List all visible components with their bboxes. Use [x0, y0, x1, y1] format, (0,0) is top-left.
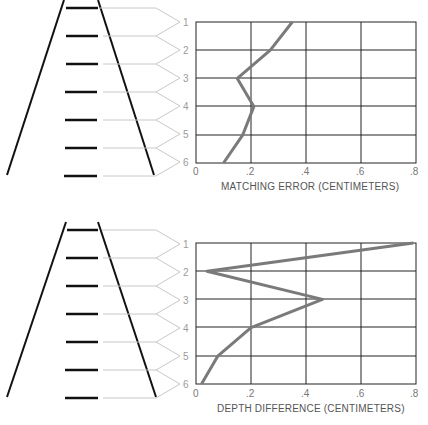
row-label: 4 — [183, 101, 189, 112]
panel-svg: 1 2 3 4 5 6 0 .2 .4 .6 .8 DEPTH DIFFEREN… — [0, 212, 428, 425]
x-tick: .4 — [301, 166, 310, 177]
row-label: 3 — [183, 295, 189, 306]
ladder-right-rail — [98, 0, 154, 175]
x-tick: .2 — [246, 166, 255, 177]
ladder-left-rail — [7, 222, 66, 397]
ladder-figure — [7, 222, 156, 398]
panel-depth-difference: 1 2 3 4 5 6 0 .2 .4 .6 .8 DEPTH DIFFEREN… — [0, 212, 428, 424]
row-label: 5 — [183, 129, 189, 140]
ladder-rungs — [64, 8, 98, 176]
x-axis-title: MATCHING ERROR (CENTIMETERS) — [221, 181, 399, 192]
ladder-right-rail — [98, 222, 156, 397]
x-tick: .6 — [356, 166, 365, 177]
row-label: 6 — [183, 379, 189, 390]
row-label: 5 — [183, 351, 189, 362]
ladder-left-rail — [7, 0, 64, 175]
row-label: 4 — [183, 323, 189, 334]
x-tick-labels: 0 .2 .4 .6 .8 — [193, 166, 419, 177]
rung-connectors — [100, 8, 180, 176]
row-label: 2 — [183, 45, 189, 56]
row-label: 6 — [183, 157, 189, 168]
data-series-line — [224, 22, 293, 163]
x-tick: 0 — [193, 166, 199, 177]
ladder-figure — [7, 0, 154, 176]
row-label: 3 — [183, 73, 189, 84]
row-label: 2 — [183, 267, 189, 278]
x-tick: .8 — [410, 166, 419, 177]
panel-svg: 1 2 3 4 5 6 0 .2 .4 .6 .8 MATCHING — [0, 0, 428, 212]
x-axis-title: DEPTH DIFFERENCE (CENTIMETERS) — [217, 403, 405, 414]
panel-matching-error: 1 2 3 4 5 6 0 .2 .4 .6 .8 MATCHING — [0, 0, 428, 212]
row-labels: 1 2 3 4 5 6 — [183, 239, 189, 390]
x-tick: 0 — [193, 388, 199, 399]
data-series-line — [202, 243, 414, 384]
x-tick: .4 — [301, 388, 310, 399]
x-tick-labels: 0 .2 .4 .6 .8 — [193, 388, 419, 399]
row-label: 1 — [183, 239, 189, 250]
row-label: 1 — [183, 17, 189, 28]
x-tick: .6 — [356, 388, 365, 399]
chart-grid — [196, 243, 416, 384]
row-labels: 1 2 3 4 5 6 — [183, 17, 189, 168]
ladder-rungs — [65, 230, 98, 398]
x-tick: .2 — [246, 388, 255, 399]
chart-grid — [196, 22, 416, 163]
x-tick: .8 — [410, 388, 419, 399]
rung-connectors — [102, 230, 180, 398]
